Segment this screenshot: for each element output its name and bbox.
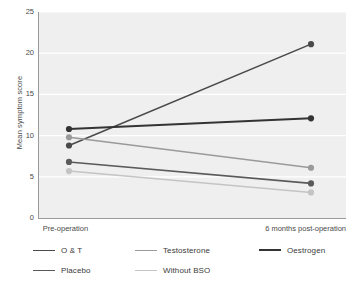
legend-item-o-t[interactable]: O & T bbox=[33, 246, 121, 255]
x-axis-tick-1: 6 months post-operation bbox=[265, 224, 346, 233]
data-point bbox=[66, 159, 72, 165]
data-point bbox=[308, 180, 314, 186]
data-point bbox=[66, 142, 72, 148]
x-axis-tick-0: Pre-operation bbox=[43, 224, 88, 233]
legend-row: O & TTestosteroneOestrogen bbox=[33, 240, 343, 260]
y-axis-tick-10: 10 bbox=[8, 132, 34, 140]
legend-label: O & T bbox=[61, 246, 82, 255]
legend-item-oestrogen[interactable]: Oestrogen bbox=[259, 246, 325, 255]
chart-legend: O & TTestosteroneOestrogenPlaceboWithout… bbox=[33, 240, 343, 280]
series-line bbox=[69, 162, 311, 183]
data-point bbox=[308, 115, 314, 121]
legend-label: Oestrogen bbox=[287, 246, 325, 255]
data-point bbox=[66, 168, 72, 174]
legend-swatch-icon bbox=[33, 250, 55, 251]
data-point bbox=[308, 189, 314, 195]
data-point bbox=[308, 165, 314, 171]
y-axis-tick-labels: 0510152025 bbox=[8, 0, 34, 225]
legend-label: Placebo bbox=[61, 266, 91, 275]
y-axis-tick-25: 25 bbox=[8, 8, 34, 16]
legend-label: Without BSO bbox=[163, 266, 210, 275]
data-point bbox=[308, 41, 314, 47]
legend-item-placebo[interactable]: Placebo bbox=[33, 266, 121, 275]
series-canvas bbox=[39, 12, 346, 218]
y-axis-tick-20: 20 bbox=[8, 49, 34, 57]
legend-swatch-icon bbox=[259, 249, 281, 251]
legend-item-testosterone[interactable]: Testosterone bbox=[135, 246, 245, 255]
series-line bbox=[69, 137, 311, 167]
legend-swatch-icon bbox=[135, 270, 157, 271]
series-line bbox=[69, 171, 311, 192]
legend-swatch-icon bbox=[33, 270, 55, 271]
y-axis-tick-5: 5 bbox=[8, 173, 34, 181]
legend-item-without-bso[interactable]: Without BSO bbox=[135, 266, 245, 275]
data-point bbox=[66, 134, 72, 140]
y-axis-tick-0: 0 bbox=[8, 214, 34, 222]
series-line bbox=[69, 118, 311, 129]
plot-area bbox=[38, 12, 346, 219]
legend-row: PlaceboWithout BSO bbox=[33, 260, 343, 280]
legend-swatch-icon bbox=[135, 250, 157, 251]
series-lines bbox=[69, 44, 311, 192]
legend-label: Testosterone bbox=[163, 246, 210, 255]
data-point bbox=[66, 126, 72, 132]
y-axis-tick-15: 15 bbox=[8, 90, 34, 98]
chart-figure: Mean symptom score 0510152025 Pre-operat… bbox=[0, 0, 355, 283]
